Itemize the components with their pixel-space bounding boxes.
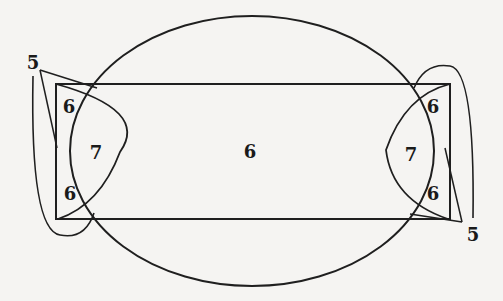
figure-canvas: 6 6 6 7 6 6 7 5 5 <box>0 0 503 301</box>
label-center-region: 6 <box>244 143 257 161</box>
label-right-bottom-corner: 6 <box>427 185 440 203</box>
right-callout-line-2 <box>445 148 462 222</box>
label-left-callout: 5 <box>27 54 40 72</box>
left-callout-line-1 <box>40 70 97 88</box>
label-right-lens: 7 <box>405 146 418 164</box>
label-left-bottom-corner: 6 <box>64 185 77 203</box>
right-callout-loop <box>414 65 473 218</box>
label-right-callout: 5 <box>467 226 480 244</box>
label-left-top-corner: 6 <box>63 98 76 116</box>
right-arc-shape <box>386 84 450 219</box>
label-right-top-corner: 6 <box>427 98 440 116</box>
label-left-lens: 7 <box>90 144 103 162</box>
left-callout-line-2 <box>40 70 57 148</box>
